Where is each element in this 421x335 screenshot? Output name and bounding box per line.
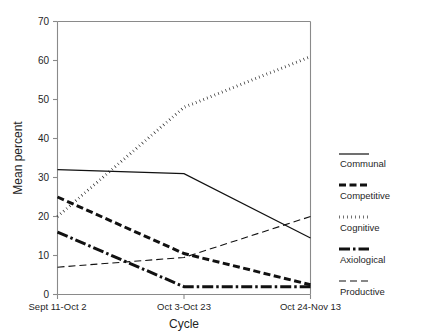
chart-figure: 70 60 50 40 30 20 10 0 Sept 11-Oct 2 Oct… bbox=[0, 0, 421, 335]
y-tick-label-40: 40 bbox=[38, 133, 50, 144]
y-axis-title: Mean percent bbox=[11, 121, 25, 195]
legend-label-competitive: Competitive bbox=[340, 190, 390, 201]
y-tick-label-20: 20 bbox=[38, 211, 50, 222]
line-chart: 70 60 50 40 30 20 10 0 Sept 11-Oct 2 Oct… bbox=[0, 0, 421, 335]
x-axis-tick-labels: Sept 11-Oct 2 Oct 3-Oct 23 Oct 24-Nov 13 bbox=[29, 301, 342, 312]
y-tick-label-60: 60 bbox=[38, 55, 50, 66]
legend-label-communal: Communal bbox=[340, 158, 386, 169]
x-tick-label-cycle-3: Oct 24-Nov 13 bbox=[280, 301, 341, 312]
x-axis-title: Cycle bbox=[169, 317, 199, 331]
legend-label-axiological: Axiological bbox=[340, 254, 385, 265]
y-tick-label-30: 30 bbox=[38, 172, 50, 183]
y-tick-label-10: 10 bbox=[38, 250, 50, 261]
series-line-cognitive bbox=[58, 57, 311, 217]
chart-legend: Communal Competitive Cognitive Axiologic… bbox=[339, 154, 390, 297]
series-line-productive bbox=[58, 217, 311, 268]
series-line-axiological bbox=[58, 232, 311, 287]
y-tick-label-50: 50 bbox=[38, 94, 50, 105]
series-group bbox=[58, 57, 311, 287]
series-line-competitive bbox=[58, 197, 311, 285]
x-tick-label-cycle-2: Oct 3-Oct 23 bbox=[157, 301, 211, 312]
x-tick-label-cycle-1: Sept 11-Oct 2 bbox=[29, 301, 87, 312]
legend-label-productive: Productive bbox=[340, 286, 385, 297]
y-tick-label-0: 0 bbox=[43, 289, 49, 300]
y-tick-label-70: 70 bbox=[38, 16, 50, 27]
legend-label-cognitive: Cognitive bbox=[340, 222, 380, 233]
y-axis-tick-labels: 70 60 50 40 30 20 10 0 bbox=[38, 16, 50, 300]
y-axis-ticks bbox=[53, 22, 58, 295]
series-line-communal bbox=[58, 170, 311, 238]
x-axis-ticks bbox=[58, 295, 311, 300]
